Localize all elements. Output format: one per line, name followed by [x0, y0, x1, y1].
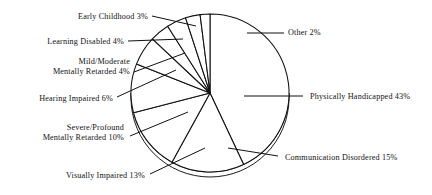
slice-label-line: Hearing Impaired 6%: [39, 94, 113, 103]
slice-label-3: Severe/ProfoundMentally Retarded 10%: [43, 123, 124, 142]
slice-label-line: Physically Handicapped 43%: [310, 92, 410, 101]
slice-label-8: Other 2%: [288, 28, 321, 37]
slice-label-line: Visually Impaired 13%: [66, 171, 145, 180]
slice-label-2: Visually Impaired 13%: [66, 171, 145, 180]
slice-label-line: Severe/Profound: [67, 123, 124, 132]
slice-label-4: Hearing Impaired 6%: [39, 94, 113, 103]
pie-slices: [131, 14, 289, 172]
slice-label-6: Learning Disabled 4%: [47, 37, 124, 46]
pie-chart-figure: Physically Handicapped 43%Communication …: [0, 0, 432, 195]
slice-label-line: Learning Disabled 4%: [47, 37, 124, 46]
slice-label-0: Physically Handicapped 43%: [310, 92, 410, 101]
slice-label-1: Communication Disordered 15%: [285, 153, 397, 162]
slice-label-7: Early Childhood 3%: [78, 12, 148, 21]
slice-label-line: Early Childhood 3%: [78, 12, 148, 21]
slice-label-line: Communication Disordered 15%: [285, 153, 397, 162]
slice-label-line: Mentally Retarded 4%: [53, 67, 130, 76]
slice-label-line: Mild/Moderate: [78, 57, 130, 66]
slice-label-5: Mild/ModerateMentally Retarded 4%: [53, 57, 130, 76]
pie-chart-svg: Physically Handicapped 43%Communication …: [0, 0, 432, 195]
slice-label-line: Other 2%: [288, 28, 321, 37]
slice-label-line: Mentally Retarded 10%: [43, 133, 124, 142]
